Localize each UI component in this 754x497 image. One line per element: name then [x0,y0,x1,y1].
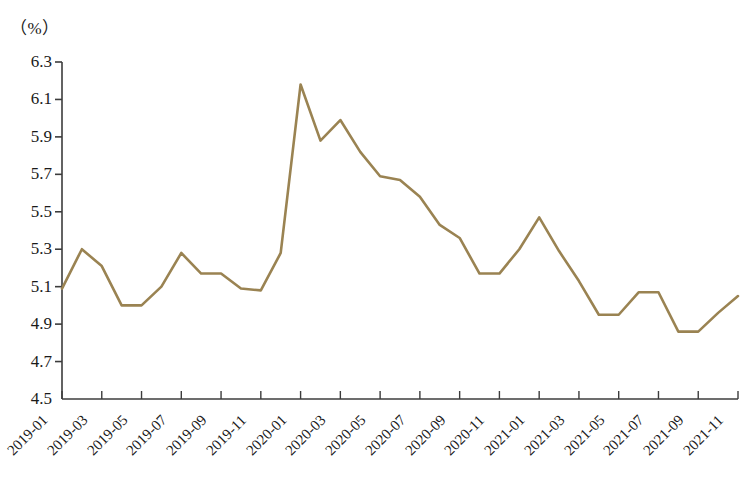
axis-lines [62,62,738,399]
chart-container: （%） 6.36.15.95.75.55.35.14.94.74.5 2019-… [0,0,754,497]
y-axis-tick-label: 6.3 [6,52,52,72]
y-axis-tick-label: 5.3 [6,239,52,259]
y-axis-tick-label: 5.9 [6,127,52,147]
y-axis-tick-label: 4.7 [6,352,52,372]
y-axis-tick-label: 5.1 [6,277,52,297]
y-axis-tick-label: 4.5 [6,389,52,409]
y-axis-tick-label: 5.7 [6,164,52,184]
y-axis-tick-label: 5.5 [6,202,52,222]
data-series-line [62,84,738,331]
y-axis-tick-marks [55,62,62,362]
x-axis-tick-marks [62,391,738,399]
y-axis-tick-label: 6.1 [6,89,52,109]
y-axis-tick-label: 4.9 [6,314,52,334]
